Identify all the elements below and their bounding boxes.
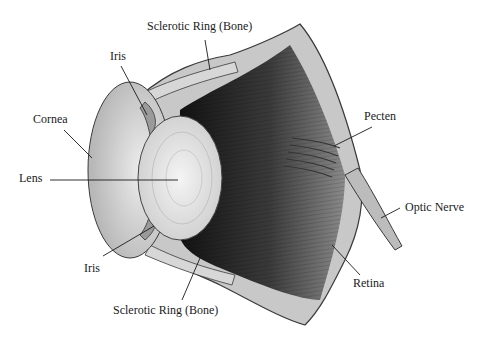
label-optic-nerve: Optic Nerve bbox=[405, 201, 464, 213]
lens bbox=[138, 116, 222, 240]
label-sclerotic-ring-top: Sclerotic Ring (Bone) bbox=[147, 20, 252, 32]
eye-anatomy-diagram bbox=[0, 0, 491, 341]
label-iris-bottom: Iris bbox=[84, 262, 100, 274]
label-lens: Lens bbox=[19, 172, 42, 184]
label-retina: Retina bbox=[353, 277, 384, 289]
label-sclerotic-ring-bottom: Sclerotic Ring (Bone) bbox=[113, 304, 218, 316]
label-pecten: Pecten bbox=[364, 110, 396, 122]
leader-cornea bbox=[64, 130, 92, 158]
label-iris-top: Iris bbox=[110, 50, 126, 62]
label-cornea: Cornea bbox=[33, 113, 68, 125]
